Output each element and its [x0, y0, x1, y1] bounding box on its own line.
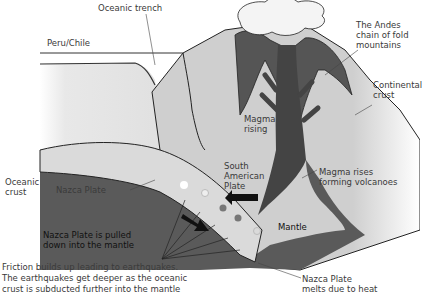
label-continental-crust: Continental crust	[373, 80, 422, 100]
magma-rising-line-1: Magma	[244, 114, 275, 124]
label-friction: Friction builds up leading to earthquake…	[2, 262, 187, 295]
pulled-down-line-1: Nazca Plate is pulled	[43, 230, 134, 240]
label-magma-rises-volcanoes: Magma rises forming volcanoes	[319, 167, 397, 187]
friction-line-2: The earthquakes get deeper as the oceani…	[2, 273, 187, 284]
label-oceanic-crust: Oceanic crust	[5, 177, 39, 197]
label-oceanic-trench: Oceanic trench	[98, 3, 162, 13]
sa-plate-line-2: American	[224, 171, 264, 181]
oceanic-crust-line-2: crust	[5, 187, 39, 197]
label-nazca-melts: Nazca Plate melts due to heat	[302, 274, 377, 294]
sa-plate-line-3: Plate	[224, 181, 264, 191]
magma-rising-line-2: rising	[244, 124, 275, 134]
label-mantle: Mantle	[278, 222, 307, 232]
label-south-american-plate: South American Plate	[224, 161, 264, 191]
friction-line-3: crust is subducted further into the mant…	[2, 284, 187, 295]
continental-line-1: Continental	[373, 80, 422, 90]
label-magma-rising: Magma rising	[244, 114, 275, 134]
label-peru-chile: Peru/Chile	[47, 38, 90, 48]
pulled-down-line-2: down into the mantle	[43, 240, 134, 250]
magma-rises-line-2: forming volcanoes	[319, 177, 397, 187]
andes-line-1: The Andes	[356, 20, 409, 30]
label-andes: The Andes chain of fold mountains	[356, 20, 409, 50]
magma-rises-line-1: Magma rises	[319, 167, 397, 177]
oceanic-crust-line-1: Oceanic	[5, 177, 39, 187]
ocean-water	[40, 63, 165, 150]
label-nazca-plate: Nazca Plate	[56, 185, 106, 195]
melts-line-2: melts due to heat	[302, 284, 377, 294]
friction-line-1: Friction builds up leading to earthquake…	[2, 262, 187, 273]
continental-line-2: crust	[373, 90, 422, 100]
sa-plate-line-1: South	[224, 161, 264, 171]
andes-line-2: chain of fold	[356, 30, 409, 40]
melts-line-1: Nazca Plate	[302, 274, 377, 284]
label-pulled-down: Nazca Plate is pulled down into the mant…	[43, 230, 134, 250]
andes-line-3: mountains	[356, 40, 409, 50]
